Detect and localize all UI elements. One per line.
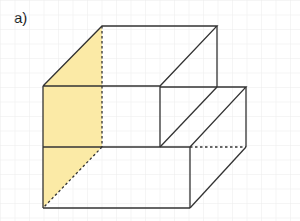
figure: a) <box>0 0 300 221</box>
solid-diagram <box>0 0 300 221</box>
